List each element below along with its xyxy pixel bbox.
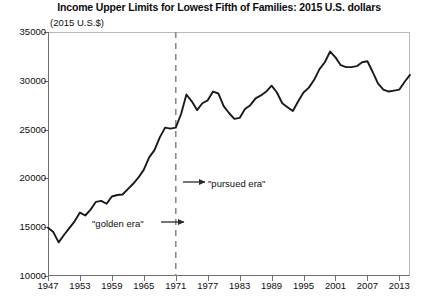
y-tick-label: 35000 xyxy=(4,26,46,37)
annotation-pursued-era: "pursued era" xyxy=(208,178,265,189)
y-axis: 100001500020000250003000035000 xyxy=(0,0,46,299)
chart-title: Income Upper Limits for Lowest Fifth of … xyxy=(0,1,438,13)
series-line xyxy=(48,52,410,243)
chart-root: Income Upper Limits for Lowest Fifth of … xyxy=(0,0,438,299)
chart-subtitle: (2015 U.S.$) xyxy=(50,17,104,28)
y-tick-label: 25000 xyxy=(4,124,46,135)
y-tick-label: 20000 xyxy=(4,172,46,183)
annotation-golden-era: "golden era" xyxy=(92,218,144,229)
x-tick-label: 2013 xyxy=(379,280,419,291)
data-plot xyxy=(48,32,410,276)
y-tick-label: 15000 xyxy=(4,221,46,232)
y-tick-label: 30000 xyxy=(4,75,46,86)
